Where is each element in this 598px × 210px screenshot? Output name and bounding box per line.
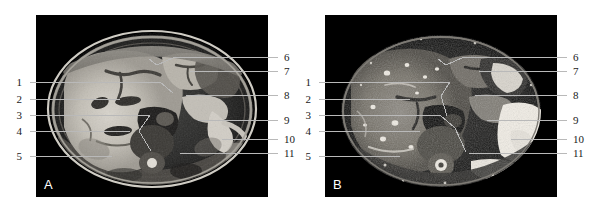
panel-b-image: B bbox=[325, 15, 557, 197]
panel-a-scan-graphic bbox=[36, 15, 268, 197]
label-number-panel-a-8: 8 bbox=[284, 90, 290, 101]
figure-container: A bbox=[0, 0, 598, 210]
label-number-panel-a-2: 2 bbox=[8, 94, 22, 105]
label-number-panel-a-1: 1 bbox=[8, 77, 22, 88]
label-number-panel-b-4: 4 bbox=[297, 126, 311, 137]
label-number-panel-b-8: 8 bbox=[573, 90, 579, 101]
label-number-panel-a-5: 5 bbox=[8, 151, 22, 162]
label-number-panel-b-7: 7 bbox=[573, 66, 579, 77]
label-number-panel-b-1: 1 bbox=[297, 77, 311, 88]
label-number-panel-a-9: 9 bbox=[284, 115, 290, 126]
label-number-panel-a-11: 11 bbox=[284, 148, 295, 159]
panel-a-image: A bbox=[36, 15, 268, 197]
label-number-panel-a-4: 4 bbox=[8, 126, 22, 137]
panel-b-letter: B bbox=[333, 178, 342, 191]
label-number-panel-a-7: 7 bbox=[284, 66, 290, 77]
label-number-panel-a-3: 3 bbox=[8, 110, 22, 121]
label-number-panel-b-3: 3 bbox=[297, 110, 311, 121]
panel-b-scan-graphic bbox=[325, 15, 557, 197]
panel-a-letter: A bbox=[44, 178, 53, 191]
label-number-panel-b-9: 9 bbox=[573, 115, 579, 126]
label-number-panel-b-6: 6 bbox=[573, 52, 579, 63]
label-number-panel-a-10: 10 bbox=[284, 134, 295, 145]
label-number-panel-b-5: 5 bbox=[297, 151, 311, 162]
label-number-panel-b-2: 2 bbox=[297, 94, 311, 105]
label-number-panel-a-6: 6 bbox=[284, 52, 290, 63]
label-number-panel-b-10: 10 bbox=[573, 134, 584, 145]
label-number-panel-b-11: 11 bbox=[573, 148, 584, 159]
